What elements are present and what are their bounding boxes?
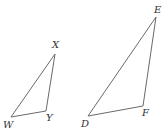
vertex-label-y: Y [46, 112, 54, 123]
vertex-label-e: E [153, 4, 162, 15]
triangle-wxy-shape [11, 54, 55, 117]
vertex-label-f: F [141, 107, 150, 118]
triangle-def-shape [88, 17, 156, 116]
vertex-label-d: D [80, 118, 89, 129]
vertex-label-x: X [51, 39, 60, 50]
vertex-label-w: W [3, 119, 14, 130]
diagram-canvas: W X Y D E F [0, 0, 167, 136]
triangle-wxy: W X Y [3, 39, 60, 130]
triangle-def: D E F [80, 4, 162, 129]
